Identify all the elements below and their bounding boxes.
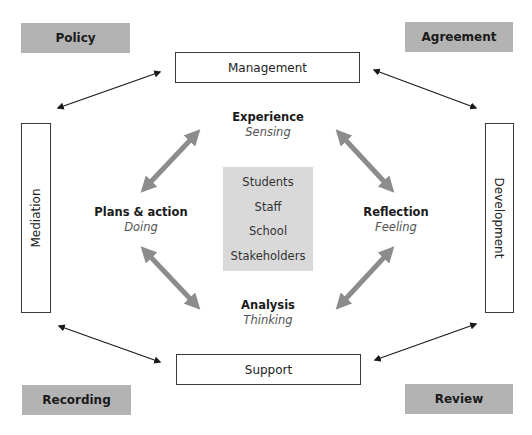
development-label: Development: [493, 178, 507, 259]
plans-action-subtitle: Doing: [94, 220, 187, 235]
connector-arrow-bottom-right: [375, 324, 476, 360]
experience-node: Experience Sensing: [232, 110, 304, 140]
recording-label: Recording: [42, 393, 111, 407]
experience-subtitle: Sensing: [232, 125, 304, 140]
plans-action-node: Plans & action Doing: [94, 205, 187, 235]
center-item-students: Students: [242, 175, 293, 189]
policy-label: Policy: [55, 31, 95, 45]
agreement-label: Agreement: [422, 30, 497, 44]
cycle-arrow-right-bottom: [340, 251, 390, 305]
center-item-staff: Staff: [255, 200, 282, 214]
cycle-arrow-bottom-left: [145, 251, 196, 305]
reflection-subtitle: Feeling: [363, 220, 428, 235]
analysis-node: Analysis Thinking: [241, 298, 295, 328]
analysis-subtitle: Thinking: [241, 313, 295, 328]
cycle-arrow-left-top: [145, 134, 196, 188]
management-label: Management: [228, 61, 307, 75]
center-item-stakeholders: Stakeholders: [231, 249, 306, 263]
mediation-box: Mediation: [21, 123, 51, 313]
center-stakeholders-box: Students Staff School Stakeholders: [223, 167, 313, 271]
recording-box: Recording: [22, 385, 131, 415]
experience-title: Experience: [232, 110, 304, 125]
review-label: Review: [435, 392, 484, 406]
center-item-school: School: [249, 224, 287, 238]
development-box: Development: [485, 123, 514, 313]
connector-arrow-top-right: [374, 70, 476, 108]
support-label: Support: [245, 363, 292, 377]
agreement-box: Agreement: [405, 22, 513, 52]
plans-action-title: Plans & action: [94, 205, 187, 220]
cycle-arrow-top-right: [340, 134, 390, 188]
management-box: Management: [175, 52, 360, 83]
connector-arrow-bottom-left: [59, 326, 160, 362]
support-box: Support: [176, 354, 361, 385]
review-box: Review: [405, 384, 513, 414]
reflection-title: Reflection: [363, 205, 428, 220]
mediation-label: Mediation: [29, 188, 43, 247]
analysis-title: Analysis: [241, 298, 295, 313]
policy-box: Policy: [21, 23, 130, 53]
reflection-node: Reflection Feeling: [363, 205, 428, 235]
connector-arrow-top-left: [58, 72, 160, 108]
